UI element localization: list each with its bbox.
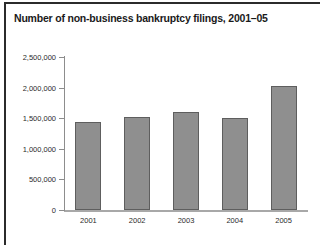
y-tick-mark	[59, 88, 65, 89]
y-tick-label: 0	[52, 206, 56, 215]
y-tick-label: 500,000	[29, 175, 56, 184]
x-tick-label-2005: 2005	[261, 216, 307, 225]
bar-2001	[75, 122, 101, 210]
y-tick-mark	[59, 210, 65, 211]
y-tick-mark	[59, 149, 65, 150]
y-tick-label: 2,000,000	[23, 83, 56, 92]
bar-2005	[271, 86, 297, 210]
y-tick-mark	[59, 179, 65, 180]
y-tick-mark	[59, 57, 65, 58]
x-tick-label-2002: 2002	[114, 216, 160, 225]
y-axis-line	[64, 56, 65, 211]
y-tick-label: 1,500,000	[23, 114, 56, 123]
bar-2002	[124, 117, 150, 210]
bar-2003	[173, 112, 199, 210]
y-tick-label: 1,000,000	[23, 144, 56, 153]
x-tick-label-2001: 2001	[65, 216, 111, 225]
bar-2004	[222, 118, 248, 210]
y-tick-label: 2,500,000	[23, 53, 56, 62]
y-tick-mark	[59, 118, 65, 119]
x-axis-line	[64, 210, 308, 212]
x-tick-label-2003: 2003	[163, 216, 209, 225]
x-tick-label-2004: 2004	[212, 216, 258, 225]
bar-chart-plot-area: 0500,0001,000,0001,500,0002,000,0002,500…	[0, 0, 320, 245]
